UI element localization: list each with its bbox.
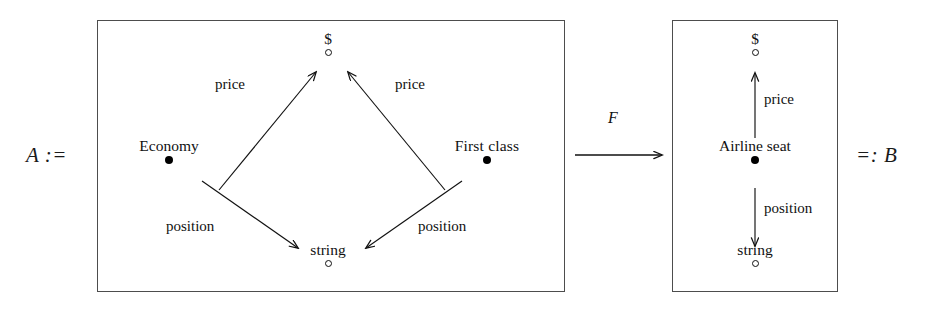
node-a-first-class-label: First class [428,138,546,154]
filled-dot-icon [165,156,173,164]
edge-label-a-price-first-class: price [395,76,425,93]
edge-label-a-position-economy: position [166,218,214,235]
node-b-string[interactable]: string [725,242,785,267]
node-b-airline-seat[interactable]: Airline seat [696,138,814,164]
edge-label-b-price: price [764,91,794,108]
open-circle-icon [752,260,759,267]
edge-label-b-position: position [764,200,812,217]
left-assignment-label: A := [26,143,67,168]
node-a-economy[interactable]: Economy [114,138,224,164]
filled-dot-icon [751,156,759,164]
node-a-first-class[interactable]: First class [428,138,546,164]
node-a-string-label: string [298,242,358,258]
node-b-dollar-label: $ [733,31,777,47]
open-circle-icon [752,49,759,56]
right-assignment-label: =: B [856,143,897,168]
diagram-canvas: A := =: B F $ Economy [0,0,934,309]
node-a-dollar[interactable]: $ [306,31,350,56]
node-a-dollar-label: $ [306,31,350,47]
edge-label-a-price-economy: price [215,76,245,93]
filled-dot-icon [483,156,491,164]
open-circle-icon [325,49,332,56]
functor-label-f: F [608,109,618,127]
edge-label-a-position-first-class: position [418,218,466,235]
node-b-airline-seat-label: Airline seat [696,138,814,154]
node-b-string-label: string [725,242,785,258]
node-a-economy-label: Economy [114,138,224,154]
node-a-string[interactable]: string [298,242,358,267]
open-circle-icon [325,260,332,267]
node-b-dollar[interactable]: $ [733,31,777,56]
